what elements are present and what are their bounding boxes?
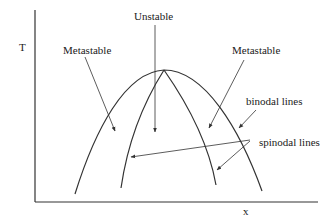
diagram-canvas	[0, 0, 336, 224]
spinodal-curve-right	[164, 70, 216, 185]
metastable-left-arrow	[85, 57, 115, 131]
spinodal-curve-left	[121, 70, 164, 188]
x-axis-label: x	[243, 206, 249, 217]
spinodal-arrow-right	[217, 141, 250, 170]
y-axis-label: T	[19, 42, 26, 53]
metastable-left-label: Metastable	[63, 45, 111, 56]
binodal-arrow	[239, 110, 256, 128]
binodal-curve	[75, 70, 262, 194]
binodal-label: binodal lines	[246, 96, 303, 107]
metastable-right-label: Metastable	[232, 45, 280, 56]
phase-diagram: T x Unstable Metastable Metastable binod…	[0, 0, 336, 224]
unstable-label: Unstable	[134, 11, 173, 22]
spinodal-arrow-left	[131, 140, 250, 157]
spinodal-label: spinodal lines	[259, 137, 320, 148]
